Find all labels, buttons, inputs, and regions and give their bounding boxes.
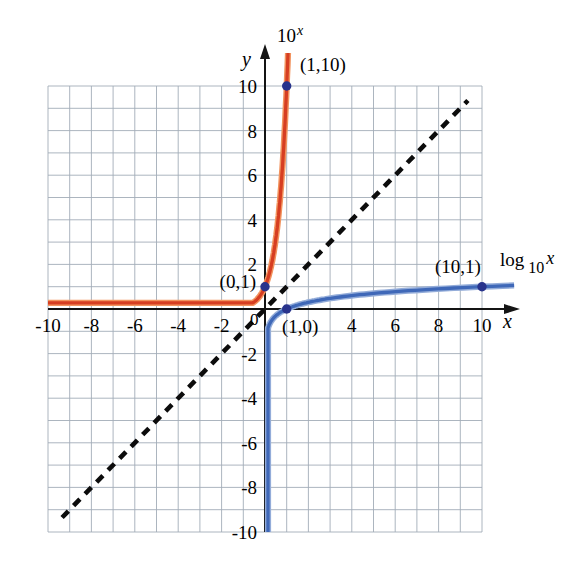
y-axis-label: y bbox=[242, 49, 251, 69]
exp-curve-label-base: 10 bbox=[277, 25, 296, 46]
x-tick-label--2: -2 bbox=[214, 316, 230, 335]
x-tick-label-10: 10 bbox=[473, 316, 492, 335]
x-tick-label--4: -4 bbox=[170, 316, 186, 335]
x-tick-label--8: -8 bbox=[83, 316, 99, 335]
log-curve-label-variable: x bbox=[546, 248, 554, 268]
x-tick-label-8: 8 bbox=[434, 316, 444, 335]
point-1-10 bbox=[282, 81, 291, 90]
y-tick-label-8: 8 bbox=[248, 121, 258, 140]
x-tick-label--10: -10 bbox=[35, 316, 60, 335]
point-label-1-10: (1,10) bbox=[300, 55, 346, 74]
y-tick-label--6: -6 bbox=[241, 433, 257, 452]
log-exp-graph-figure: y x 0 10x log10x (1,10) (0,1) (1,0) (10,… bbox=[0, 0, 583, 561]
y-tick-label--2: -2 bbox=[241, 344, 257, 363]
log-curve-label-base: 10 bbox=[528, 259, 544, 276]
point-1-0 bbox=[282, 304, 291, 313]
log-curve-label: log10x bbox=[500, 250, 554, 269]
x-tick-label-6: 6 bbox=[390, 316, 400, 335]
origin-label: 0 bbox=[250, 311, 259, 328]
y-tick-label--8: -8 bbox=[241, 478, 257, 497]
y-tick-label-10: 10 bbox=[238, 77, 257, 96]
point-label-1-0: (1,0) bbox=[282, 317, 318, 336]
x-tick-label--6: -6 bbox=[127, 316, 143, 335]
y-tick-label-6: 6 bbox=[248, 166, 258, 185]
y-tick-label-4: 4 bbox=[248, 210, 258, 229]
exp-curve-label-exponent: x bbox=[297, 23, 303, 38]
y-tick-label-2: 2 bbox=[248, 255, 258, 274]
exp-curve-label: 10x bbox=[277, 26, 303, 45]
y-tick-label--10: -10 bbox=[232, 523, 257, 542]
point-label-10-1: (10,1) bbox=[435, 257, 481, 276]
y-tick-label--4: -4 bbox=[241, 389, 257, 408]
x-axis-label: x bbox=[503, 311, 512, 331]
point-0-1 bbox=[260, 282, 269, 291]
plot-canvas bbox=[0, 0, 583, 561]
point-10-1 bbox=[477, 282, 486, 291]
log-curve-label-fn: log bbox=[500, 249, 524, 270]
x-tick-label-4: 4 bbox=[347, 316, 357, 335]
